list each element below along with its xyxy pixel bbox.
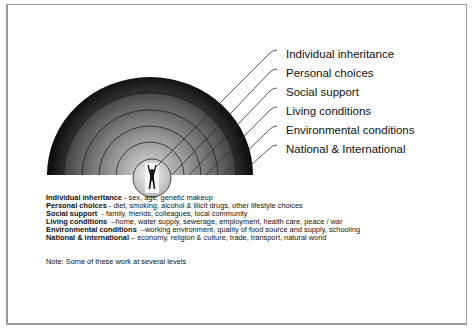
note-text: Note: Some of these work at several leve…	[46, 257, 186, 266]
legend-row: National & international – economy, reli…	[46, 234, 360, 242]
legend-desc: economy, religion & culture, trade, tran…	[137, 233, 326, 242]
legend-term: National & international	[46, 233, 129, 242]
legend-sep: –	[129, 233, 137, 242]
layer-label-environmental: Environmental conditions	[286, 123, 415, 137]
layer-label-living: Living conditions	[286, 104, 371, 118]
layer-label-national: National & International	[286, 142, 406, 156]
layer-label-individual: Individual inheritance	[286, 47, 394, 61]
layer-label-personal: Personal choices	[286, 66, 374, 80]
legend: Individual inheritance - sex, age, genet…	[46, 194, 360, 243]
determinants-of-health-diagram	[0, 0, 475, 335]
layer-label-social: Social support	[286, 85, 359, 99]
individual-circle	[133, 159, 171, 197]
